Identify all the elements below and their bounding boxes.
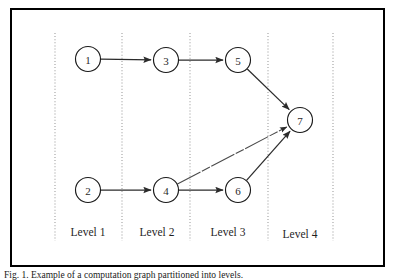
node-label-7: 7: [297, 115, 303, 127]
edge-1-to-3: [101, 59, 151, 60]
node-label-2: 2: [85, 185, 91, 197]
graph-node-4[interactable]: 4: [154, 178, 179, 203]
node-label-4: 4: [163, 185, 169, 197]
figure-caption: Fig. 1. Example of a computation graph p…: [4, 270, 392, 280]
level-label-3: Level 3: [211, 226, 246, 238]
figure-root: 1234567 Level 1Level 2Level 3Level 4 Fig…: [0, 0, 395, 280]
graph-node-3[interactable]: 3: [154, 48, 179, 73]
edge-group: [101, 59, 290, 190]
graph-node-2[interactable]: 2: [76, 178, 101, 203]
graph-node-6[interactable]: 6: [226, 178, 251, 203]
node-label-5: 5: [235, 55, 241, 67]
graph-node-1[interactable]: 1: [76, 47, 101, 72]
node-group: 1234567: [76, 47, 313, 203]
node-label-6: 6: [235, 185, 241, 197]
edge-4-to-7: [177, 127, 286, 184]
graph-node-5[interactable]: 5: [226, 48, 251, 73]
level-label-4: Level 4: [283, 228, 318, 240]
level-label-2: Level 2: [140, 226, 175, 238]
graph-canvas: 1234567 Level 1Level 2Level 3Level 4: [0, 0, 395, 280]
node-label-3: 3: [163, 55, 169, 67]
node-label-1: 1: [85, 54, 91, 66]
level-label-1: Level 1: [71, 226, 106, 238]
level-label-group: Level 1Level 2Level 3Level 4: [71, 226, 318, 240]
edge-5-to-7: [247, 69, 289, 110]
graph-node-7[interactable]: 7: [288, 108, 313, 133]
